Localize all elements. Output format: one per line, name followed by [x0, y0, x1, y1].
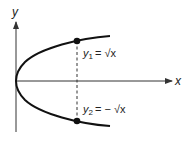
point-upper	[74, 38, 81, 45]
parabola-diagram: y x y1= √x y2= − √x	[0, 0, 190, 144]
label-y1: y1= √x	[82, 47, 116, 61]
x-axis-label: x	[174, 74, 182, 88]
point-lower	[74, 118, 81, 125]
y-axis-label: y	[11, 5, 19, 19]
label-y2: y2= − √x	[82, 103, 126, 117]
